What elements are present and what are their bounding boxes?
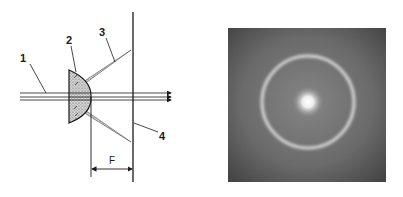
label-2: 2 bbox=[66, 34, 72, 46]
label-3: 3 bbox=[99, 26, 105, 38]
label-f: F bbox=[109, 155, 115, 166]
collimated-beam bbox=[20, 93, 171, 100]
optical-diagram: 1 2 3 4 F bbox=[0, 0, 200, 197]
leader-4 bbox=[134, 123, 158, 132]
leader-3 bbox=[106, 38, 115, 62]
label-4: 4 bbox=[159, 130, 166, 142]
label-1: 1 bbox=[20, 52, 26, 64]
leader-1 bbox=[30, 64, 46, 93]
central-spot bbox=[292, 86, 324, 118]
ring-pattern-photo bbox=[228, 28, 386, 182]
leader-2 bbox=[71, 46, 76, 72]
